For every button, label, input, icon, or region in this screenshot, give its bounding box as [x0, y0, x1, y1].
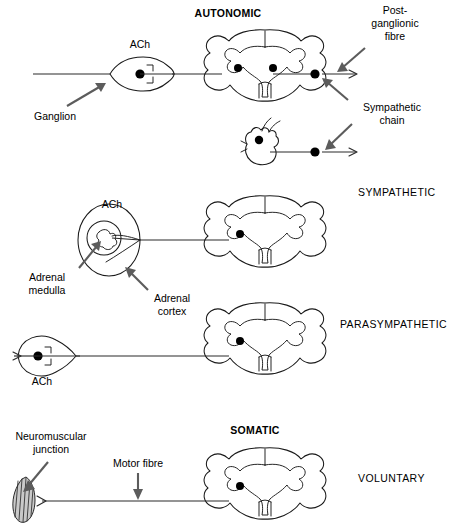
sympathetic-chain-leader-upper [322, 78, 348, 100]
spinal-cord-somatic [204, 448, 326, 519]
adrenal-fibre-fan-lower [106, 240, 140, 262]
parasympathetic-ganglion [13, 336, 80, 376]
nervous-system-diagram: AUTONOMIC SOMATIC ACh ACh ACh Ganglion P… [0, 0, 450, 526]
adrenal-medulla-leader [79, 241, 101, 268]
motor-fibre-leader [133, 473, 143, 500]
adrenal-cortex-leader [125, 267, 148, 290]
post-ganglionic-fibre-leader [337, 48, 365, 72]
label-ach-adrenal: ACh [102, 198, 123, 210]
cord-central-canal [259, 248, 271, 264]
ganglion-leader-line [67, 86, 101, 106]
sympathetic-chain-leader-line-1 [327, 82, 348, 100]
label-sympathetic-chain-line2: chain [379, 114, 404, 126]
cord-cell-body-left [236, 230, 244, 238]
neuromuscular-junction [13, 477, 35, 522]
sympathetic-chain-leader-line-2 [330, 124, 352, 145]
cord-central-canal [259, 355, 271, 371]
nmj-leader-line [28, 462, 48, 486]
chain-ganglion-dendrite-1 [262, 118, 271, 131]
sympathetic-chain-ganglion [310, 69, 319, 78]
chain-ganglion-relay-dot [310, 147, 319, 156]
label-post-ganglionic-fibre-line1: Post- [383, 4, 408, 16]
sympathetic-chain-leader-lower [325, 124, 352, 150]
spinal-cord-autonomic [204, 30, 326, 101]
label-post-ganglionic-fibre: Post- ganglionic fibre [371, 4, 418, 42]
label-post-ganglionic-fibre-line2: ganglionic [371, 17, 418, 29]
spinal-cord-adrenal [204, 196, 326, 267]
division-label-parasympathetic: PARASYMPATHETIC [340, 318, 447, 330]
cord-gray-matter-butterfly [225, 212, 305, 263]
ganglion-leader [67, 83, 106, 106]
division-label-sympathetic: SYMPATHETIC [358, 186, 436, 198]
label-adrenal-cortex-line2: cortex [158, 305, 187, 317]
cord-gray-matter-butterfly [225, 464, 305, 515]
label-ach-parasympathetic: ACh [32, 375, 53, 387]
label-adrenal-medulla-line1: Adrenal [29, 271, 65, 283]
label-neuromuscular-junction-line1: Neuromuscular [15, 430, 87, 442]
chain-ganglion-blob-outline [246, 128, 279, 165]
row-autonomic-sympathetic-chain [241, 118, 357, 165]
cord-cell-body-left [236, 337, 244, 345]
label-sympathetic-chain-line1: Sympathetic [363, 101, 421, 113]
chain-ganglion-cell-body [255, 136, 263, 144]
cord-central-canal [259, 82, 271, 98]
division-label-voluntary: VOLUNTARY [358, 472, 425, 484]
cord-cell-body-left [234, 64, 242, 72]
cord-central-canal [259, 500, 271, 516]
label-neuromuscular-junction: Neuromuscular junction [15, 430, 87, 455]
label-ach-sympathetic-ganglion: ACh [130, 38, 151, 50]
spinal-cord-parasympathetic [204, 303, 326, 374]
diagram-canvas: AUTONOMIC SOMATIC ACh ACh ACh Ganglion P… [0, 0, 450, 526]
label-ganglion: Ganglion [34, 110, 76, 122]
heading-somatic: SOMATIC [230, 424, 280, 436]
cord-cell-body-left [236, 482, 244, 490]
label-post-ganglionic-fibre-line3: fibre [385, 30, 406, 42]
heading-autonomic: AUTONOMIC [195, 7, 262, 19]
label-adrenal-medulla: Adrenal medulla [29, 271, 66, 296]
cord-cell-body-right [269, 64, 277, 72]
label-motor-fibre: Motor fibre [113, 457, 163, 469]
adrenal-medulla-leader-arrowhead [91, 241, 101, 251]
label-neuromuscular-junction-line2: junction [32, 443, 69, 455]
row-somatic-voluntary [13, 448, 326, 523]
label-adrenal-medulla-line2: medulla [29, 284, 66, 296]
row-autonomic-sympathetic-ganglionic [33, 30, 357, 101]
adrenal-cortex-leader-line [130, 272, 148, 290]
label-adrenal-cortex: Adrenal cortex [154, 292, 190, 317]
cord-gray-matter-butterfly [225, 319, 305, 370]
post-ganglionic-leader-line [342, 48, 365, 68]
label-adrenal-cortex-line1: Adrenal [154, 292, 190, 304]
motor-fibre-leader-arrowhead [133, 489, 143, 500]
label-sympathetic-chain: Sympathetic chain [363, 101, 421, 126]
sympathetic-ganglion [110, 57, 175, 91]
